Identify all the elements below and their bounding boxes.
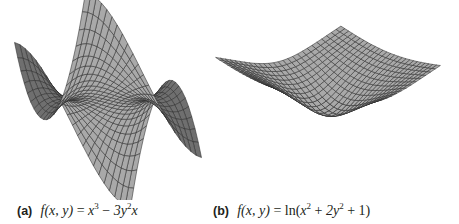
log-surface-plot <box>200 0 459 200</box>
caption-a-label: (a) <box>17 204 32 218</box>
caption-b-label: (b) <box>213 204 229 218</box>
caption-b-formula: f(x, y) = ln(x2 + 2y2 + 1) <box>237 203 370 218</box>
figure-a <box>0 0 225 224</box>
monkey-saddle-surface-plot <box>0 0 225 200</box>
figure-b <box>200 0 459 224</box>
caption-b: (b) f(x, y) = ln(x2 + 2y2 + 1) <box>213 201 370 219</box>
caption-a: (a) f(x, y) = x3 − 3y2x <box>17 201 138 219</box>
caption-a-formula: f(x, y) = x3 − 3y2x <box>41 203 138 218</box>
